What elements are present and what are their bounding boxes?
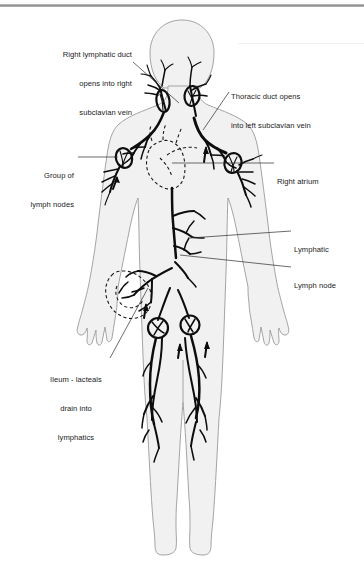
- group-of-lymph-nodes-label: Group of lymph nodes: [10, 152, 74, 229]
- label-line: Lymph node: [294, 281, 360, 291]
- head-shape: [150, 20, 214, 88]
- cervical-branch-l3: [147, 65, 151, 76]
- label-line: subclavian vein: [28, 108, 132, 118]
- leg-left-branch-c: [142, 414, 144, 428]
- label-line: drain into: [36, 404, 116, 414]
- label-line: opens into right: [28, 79, 132, 89]
- label-line: into left subclavian vein: [231, 121, 357, 131]
- label-line: Lymphatic: [294, 245, 356, 255]
- right-atrium-label: Right atrium: [277, 158, 347, 206]
- label-line: Right lymphatic duct: [28, 50, 132, 60]
- right-lymphatic-duct-label: Right lymphatic duct opens into right su…: [28, 31, 132, 137]
- label-line: Group of: [10, 171, 74, 181]
- ileum-lacteals-label: Ileum - lacteals drain into lymphatics: [36, 356, 116, 462]
- label-line: Thoracic duct opens: [231, 92, 357, 102]
- label-line: lymph nodes: [10, 200, 74, 210]
- lacteal-branch-h: [119, 282, 128, 293]
- lacteal-branch-d: [122, 295, 134, 298]
- cervical-branch-l4: [141, 74, 151, 76]
- lacteal-branch-e: [151, 279, 152, 302]
- lymph-node-label: Lymph node: [294, 262, 360, 310]
- label-line: Ileum - lacteals: [36, 375, 116, 385]
- lymphatic-system-figure: .body { fill:#f1f1f1; stroke:#9a9a9a; st…: [0, 0, 364, 580]
- label-line: Right atrium: [277, 177, 347, 187]
- thoracic-duct-label: Thoracic duct opens into left subclavian…: [231, 73, 357, 150]
- label-line: lymphatics: [36, 433, 116, 443]
